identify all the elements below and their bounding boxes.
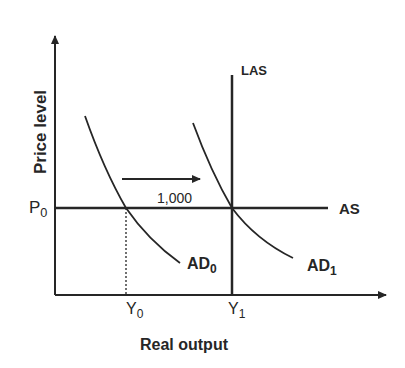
ad1-label-sub: 1 — [330, 264, 337, 278]
ad0-label-main: AD — [187, 255, 210, 272]
y1-label-sub: 1 — [239, 307, 246, 321]
p0-label: P0 — [29, 199, 47, 216]
ad1-label: AD1 — [307, 258, 337, 274]
ad0-label-sub: 0 — [210, 262, 217, 276]
shift-amount-label: 1,000 — [157, 191, 192, 205]
y0-label: Y0 — [126, 301, 143, 317]
y1-label-main: Y — [228, 300, 239, 317]
y1-label: Y1 — [228, 301, 245, 317]
as-label: AS — [339, 201, 360, 216]
p0-label-main: P — [29, 198, 40, 217]
y0-label-main: Y — [126, 300, 137, 317]
ad1-curve — [193, 123, 293, 258]
las-label: LAS — [241, 64, 267, 77]
ad0-label: AD0 — [187, 256, 217, 272]
y0-label-sub: 0 — [137, 307, 144, 321]
y-axis-label: Price level — [32, 90, 49, 174]
ad1-label-main: AD — [307, 257, 330, 274]
x-axis-label: Real output — [140, 337, 228, 353]
ad-as-diagram — [0, 0, 405, 368]
p0-label-sub: 0 — [40, 205, 47, 220]
